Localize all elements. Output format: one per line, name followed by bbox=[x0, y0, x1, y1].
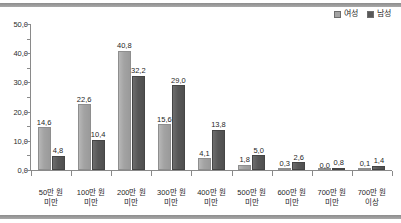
category-label: 100만 원미만 bbox=[71, 188, 111, 208]
category-tick bbox=[71, 171, 72, 176]
bar-value-label: 40,8 bbox=[117, 42, 132, 50]
y-tick-major bbox=[25, 24, 30, 25]
category-label-line: 200만 원 bbox=[111, 188, 151, 198]
bar-female[interactable] bbox=[198, 158, 211, 170]
bar-male[interactable] bbox=[132, 76, 145, 170]
chart-legend: 여성 남성 bbox=[334, 10, 391, 18]
bar-slot: 15,6 bbox=[158, 24, 171, 170]
bar-slot: 5,0 bbox=[252, 24, 265, 170]
category-tick bbox=[352, 171, 353, 176]
bar-slot: 40,8 bbox=[118, 24, 131, 170]
bar-male[interactable] bbox=[292, 162, 305, 170]
bar-slot: 13,8 bbox=[212, 24, 225, 170]
bar-value-label: 0,8 bbox=[334, 159, 344, 167]
bar-group: 14,64,8 bbox=[31, 24, 71, 170]
category-label-line: 700만 원 bbox=[312, 188, 352, 198]
bar-slot: 0,1 bbox=[358, 24, 371, 170]
category-label: 400만 원미만 bbox=[191, 188, 231, 208]
legend-item-female[interactable]: 여성 bbox=[334, 10, 358, 18]
bar-male[interactable] bbox=[92, 140, 105, 170]
category-label-line: 500만 원 bbox=[232, 188, 272, 198]
bar-group: 0,00,8 bbox=[312, 24, 352, 170]
category-tick bbox=[272, 171, 273, 176]
bar-value-label: 29,0 bbox=[171, 77, 186, 85]
bar-female[interactable] bbox=[358, 168, 371, 170]
category-tick bbox=[31, 171, 32, 176]
bar-female[interactable] bbox=[278, 168, 291, 170]
bar-slot: 1,8 bbox=[238, 24, 251, 170]
bar-slot: 14,6 bbox=[38, 24, 51, 170]
bar-value-label: 13,8 bbox=[211, 121, 226, 129]
bar-group: 40,832,2 bbox=[111, 24, 151, 170]
category-label-line: 300만 원 bbox=[151, 188, 191, 198]
y-axis-tick-labels: 0,010,020,030,040,050,0 bbox=[2, 24, 28, 170]
x-axis-category-labels: 50만 원미만100만 원미만200만 원미만300만 원미만400만 원미만5… bbox=[31, 188, 392, 208]
bar-value-label: 5,0 bbox=[253, 147, 263, 155]
legend-swatch-female bbox=[334, 11, 341, 18]
category-label: 500만 원미만 bbox=[232, 188, 272, 208]
category-label-line: 미만 bbox=[71, 198, 111, 208]
bar-value-label: 15,6 bbox=[157, 116, 172, 124]
bar-value-label: 1,8 bbox=[239, 156, 249, 164]
y-tick-major bbox=[25, 170, 30, 171]
bar-value-label: 4,1 bbox=[199, 150, 209, 158]
bar-female[interactable] bbox=[158, 124, 171, 170]
bar-value-label: 2,6 bbox=[293, 154, 303, 162]
category-label-line: 미만 bbox=[31, 198, 71, 208]
bar-value-label: 14,6 bbox=[37, 119, 52, 127]
category-label-line: 미만 bbox=[111, 198, 151, 208]
category-label: 200만 원미만 bbox=[111, 188, 151, 208]
bars-container: 14,64,822,610,440,832,215,629,04,113,81,… bbox=[31, 24, 392, 170]
bar-female[interactable] bbox=[238, 165, 251, 170]
category-label-line: 700만 원 bbox=[352, 188, 392, 198]
bar-slot: 32,2 bbox=[132, 24, 145, 170]
legend-item-male[interactable]: 남성 bbox=[367, 10, 391, 18]
bar-female[interactable] bbox=[78, 104, 91, 170]
y-tick-major bbox=[25, 112, 30, 113]
bar-male[interactable] bbox=[52, 156, 65, 170]
category-label-line: 50만 원 bbox=[31, 188, 71, 198]
bar-male[interactable] bbox=[212, 130, 225, 170]
bar-value-label: 0,1 bbox=[360, 160, 370, 168]
bar-value-label: 22,6 bbox=[77, 96, 92, 104]
bar-group: 22,610,4 bbox=[71, 24, 111, 170]
bar-group: 0,32,6 bbox=[272, 24, 312, 170]
y-tick-minor bbox=[27, 126, 30, 127]
y-tick-minor bbox=[27, 97, 30, 98]
category-label-line: 미만 bbox=[232, 198, 272, 208]
bar-male[interactable] bbox=[372, 166, 385, 170]
category-tick bbox=[232, 171, 233, 176]
category-label-line: 400만 원 bbox=[191, 188, 231, 198]
bar-female[interactable] bbox=[38, 127, 51, 170]
bar-male[interactable] bbox=[172, 85, 185, 170]
bar-slot: 2,6 bbox=[292, 24, 305, 170]
bar-male[interactable] bbox=[332, 168, 345, 170]
category-label-line: 미만 bbox=[151, 198, 191, 208]
bar-female[interactable] bbox=[118, 51, 131, 170]
bar-value-label: 0,0 bbox=[320, 162, 330, 170]
legend-label-male: 남성 bbox=[377, 10, 391, 18]
bar-value-label: 32,2 bbox=[131, 67, 146, 75]
bar-slot: 22,6 bbox=[78, 24, 91, 170]
y-tick-major bbox=[25, 82, 30, 83]
category-label: 50만 원미만 bbox=[31, 188, 71, 208]
category-label-line: 600만 원 bbox=[272, 188, 312, 198]
y-tick-major bbox=[25, 141, 30, 142]
y-tick-minor bbox=[27, 68, 30, 69]
category-label: 600만 원미만 bbox=[272, 188, 312, 208]
category-label: 300만 원미만 bbox=[151, 188, 191, 208]
legend-swatch-male bbox=[367, 11, 374, 18]
bar-slot: 10,4 bbox=[92, 24, 105, 170]
y-tick-minor bbox=[27, 155, 30, 156]
bar-value-label: 0,3 bbox=[279, 160, 289, 168]
category-tick bbox=[312, 171, 313, 176]
bar-group: 1,85,0 bbox=[232, 24, 272, 170]
legend-label-female: 여성 bbox=[344, 10, 358, 18]
bar-group: 0,11,4 bbox=[352, 24, 392, 170]
category-label: 700만 원이상 bbox=[352, 188, 392, 208]
bar-male[interactable] bbox=[252, 155, 265, 170]
bar-slot: 4,8 bbox=[52, 24, 65, 170]
y-tick-major bbox=[25, 53, 30, 54]
bar-slot: 4,1 bbox=[198, 24, 211, 170]
category-label: 700만 원미만 bbox=[312, 188, 352, 208]
